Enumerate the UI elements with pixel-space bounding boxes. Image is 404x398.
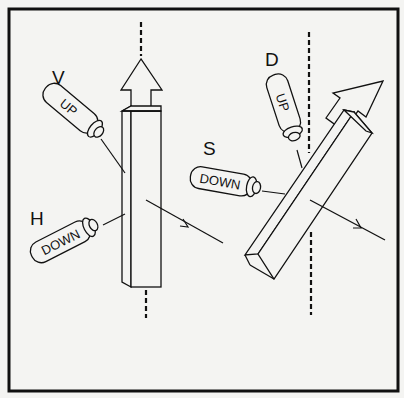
right-incoming-arrow xyxy=(310,200,385,240)
label-s: S xyxy=(203,138,216,159)
left-bar-side-face xyxy=(122,106,131,287)
frame-border xyxy=(9,9,398,391)
cylinder-d: UP xyxy=(264,71,306,143)
label-d: D xyxy=(265,49,279,70)
cylinder-s: DOWN xyxy=(189,165,263,199)
label-v: V xyxy=(52,67,65,88)
left-bar-front-face xyxy=(131,111,161,287)
diagram-figure: UP V DOWN H UP D xyxy=(0,0,404,398)
right-bar-front-face xyxy=(258,112,372,279)
left-vertical-bar xyxy=(121,22,162,318)
cylinder-s-wire xyxy=(262,191,285,194)
left-up-arrow-icon xyxy=(121,59,162,110)
cylinder-v: UP xyxy=(39,79,109,143)
cylinder-d-wire xyxy=(297,150,302,168)
diagram-canvas: UP V DOWN H UP D xyxy=(0,0,404,398)
right-tilted-bar xyxy=(245,32,383,315)
label-h: H xyxy=(30,208,44,229)
left-bar-top-face xyxy=(122,106,161,111)
